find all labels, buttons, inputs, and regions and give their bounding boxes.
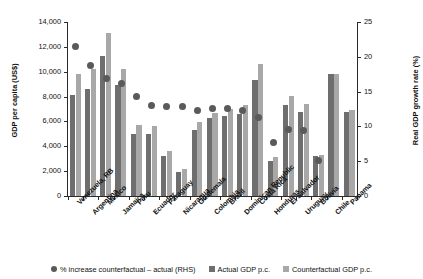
dot-pct-increase [103,75,110,82]
x-axis-tick [114,197,115,200]
y-axis-left-tick-label: 6,000 [1,117,61,125]
dot-pct-increase [255,114,262,121]
y-axis-right-tick [358,92,361,93]
dot-pct-increase [133,93,140,100]
legend-label: Counterfactual GDP p.c. [292,265,372,274]
legend-item: % increase counterfactual – actual (RHS) [51,265,196,274]
x-axis-tick [342,197,343,200]
y-axis-left-tick [64,121,67,122]
bar-counterfactual [243,105,248,196]
bar-actual [344,112,349,197]
y-axis-left-tick-label: 8,000 [1,93,61,101]
dot-pct-increase [209,105,216,112]
legend-label: % increase counterfactual – actual (RHS) [60,265,196,274]
legend-square-counterfactual-icon [283,266,289,272]
y-axis-right-tick-label: 25 [364,18,394,26]
x-axis-tick [281,197,282,200]
legend-item: Counterfactual GDP p.c. [283,265,372,274]
dot-pct-increase [163,103,170,110]
bar-counterfactual [334,74,339,196]
bar-actual [222,116,227,196]
y-axis-left-tick-label: 14,000 [1,18,61,26]
dot-pct-increase [179,103,186,110]
x-axis-tick [174,197,175,200]
bar-actual [176,172,181,196]
bar-actual [252,80,257,196]
legend-label: Actual GDP p.c. [218,265,270,274]
bar-actual [192,130,197,196]
y-axis-left-tick-label: 10,000 [1,68,61,76]
bar-counterfactual [228,109,233,196]
chart-figure: GDP per capita (US$) Real GDP growth rat… [0,0,423,279]
x-axis-tick [235,197,236,200]
y-axis-right-tick [358,57,361,58]
dot-pct-increase [87,62,94,69]
bar-actual [298,112,303,197]
bar-actual [115,85,120,196]
legend-dot-icon [51,266,57,272]
y-axis-left-tick-label: 12,000 [1,43,61,51]
legend-item: Actual GDP p.c. [209,265,270,274]
y-axis-right-tick-label: 10 [364,122,394,130]
y-axis-right-tick [358,196,361,197]
bar-counterfactual [167,151,172,196]
x-axis-tick [129,197,130,200]
x-axis-tick [83,197,84,200]
y-axis-left-tick [64,22,67,23]
y-axis-right-tick-label: 15 [364,88,394,96]
dot-pct-increase [194,107,201,114]
bar-actual [268,161,273,196]
bar-counterfactual [152,126,157,196]
bar-counterfactual [182,169,187,196]
y-axis-left-tick [64,97,67,98]
bar-actual [328,74,333,196]
y-axis-right-tick [358,126,361,127]
x-axis-tick [190,197,191,200]
bar-counterfactual [273,157,278,196]
x-axis-tick [251,197,252,200]
y-axis-right-tick [358,22,361,23]
x-axis-tick [296,197,297,200]
bar-actual [161,156,166,196]
plot-area: 02,0004,0006,0008,00010,00012,00014,000 … [68,22,357,196]
y-axis-right-line [357,22,358,197]
dot-pct-increase [148,102,155,109]
bar-counterfactual [91,69,96,196]
bar-actual [237,114,242,196]
y-axis-right-tick-label: 5 [364,157,394,165]
x-axis-tick [357,197,358,200]
y-axis-left-tick-label: 0 [1,192,61,200]
dot-pct-increase [285,126,292,133]
x-axis-label-chile: Chile [333,198,351,216]
bar-actual [131,134,136,196]
x-axis-tick [311,197,312,200]
bar-counterfactual [106,33,111,196]
dot-pct-increase [224,105,231,112]
bar-counterfactual [349,110,354,196]
y-axis-left-tick [64,171,67,172]
y-axis-left-tick [64,196,67,197]
bar-counterfactual [304,104,309,196]
bar-counterfactual [197,122,202,196]
x-axis-tick [220,197,221,200]
bar-counterfactual [258,64,263,196]
y-axis-left-tick-label: 2,000 [1,167,61,175]
x-axis-line [67,196,358,197]
y-axis-left-tick-label: 4,000 [1,142,61,150]
y-axis-left-tick [64,146,67,147]
y-axis-left-tick [64,72,67,73]
x-axis-tick [205,197,206,200]
bar-actual [283,105,288,196]
bar-counterfactual [212,113,217,196]
bar-actual [85,89,90,197]
legend-square-actual-icon [209,266,215,272]
bar-counterfactual [289,96,294,196]
bar-actual [207,118,212,196]
bar-counterfactual [121,69,126,196]
y-axis-right-title: Real GDP growth rate (%) [411,38,420,164]
y-axis-right-tick-label: 20 [364,53,394,61]
dot-pct-increase [270,139,277,146]
bar-actual [146,134,151,196]
x-axis-tick [159,197,160,200]
x-axis-tick [327,197,328,200]
